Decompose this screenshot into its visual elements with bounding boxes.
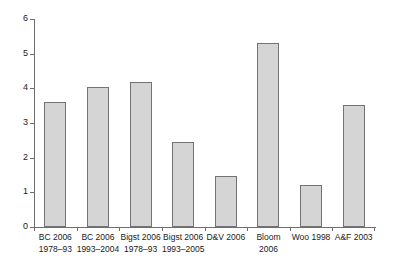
y-tick-mark xyxy=(30,123,34,124)
bar-chart-figure: 0123456 BC 20061978–93BC 20061993–2004Bi… xyxy=(0,0,396,269)
x-axis-label-line: 1993–2005 xyxy=(147,243,219,255)
y-tick-mark xyxy=(30,158,34,159)
y-tick-label: 1 xyxy=(23,185,28,198)
bar xyxy=(130,82,152,227)
y-tick-label: 6 xyxy=(23,12,28,25)
y-tick-mark xyxy=(30,54,34,55)
x-axis-labels: BC 20061978–93BC 20061993–2004Bigst 2006… xyxy=(34,231,376,267)
x-axis-label-line: A&F 2003 xyxy=(318,231,390,243)
x-axis-label: A&F 2003 xyxy=(318,231,390,243)
y-tick-mark xyxy=(30,192,34,193)
y-tick-label: 3 xyxy=(23,116,28,129)
y-tick-mark xyxy=(30,19,34,20)
y-tick-label: 2 xyxy=(23,151,28,164)
plot-area: 0123456 xyxy=(34,19,375,227)
bar xyxy=(172,142,194,227)
y-tick-label: 5 xyxy=(23,47,28,60)
y-tick-label: 4 xyxy=(23,81,28,94)
bar xyxy=(215,176,237,227)
bar xyxy=(87,87,109,227)
bar xyxy=(44,102,66,227)
bar xyxy=(300,185,322,227)
y-tick-mark xyxy=(30,88,34,89)
x-axis-label-line: 2006 xyxy=(232,243,304,255)
bar xyxy=(257,43,279,227)
bar xyxy=(343,105,365,227)
